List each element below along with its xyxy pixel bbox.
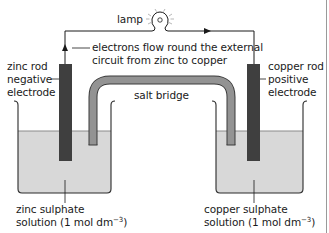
copper-rod-label-line2: positive: [268, 73, 308, 86]
lamp-icon: [146, 9, 174, 31]
copper-solution-label-line1: copper sulphate: [204, 203, 288, 216]
diagram-drawing: [0, 0, 329, 233]
lamp-label: lamp: [117, 13, 143, 26]
zinc-rod-label-line2: negative: [7, 73, 52, 86]
copper-solution-label-line2: solution (1 mol dm−3): [204, 216, 315, 229]
zinc-solution-label-line1: zinc sulphate: [16, 203, 84, 216]
electrochemical-cell-diagram: lamp electrons flow round the external c…: [0, 0, 329, 233]
zinc-rod-label-line3: electrode: [7, 86, 55, 99]
zinc-rod: [59, 64, 72, 161]
copper-rod-label-line3: electrode: [268, 86, 316, 99]
zinc-rod-label-line1: zinc rod: [7, 60, 48, 73]
electron-flow-arrow-up: [62, 44, 68, 51]
copper-rod-label-line1: copper rod: [268, 60, 324, 73]
copper-rod: [247, 64, 260, 161]
frame-right-border: [326, 0, 327, 233]
salt-bridge-label: salt bridge: [134, 89, 189, 102]
electron-flow-arrow-right: [204, 28, 211, 34]
electron-flow-label-line1: electrons flow round the external: [92, 41, 263, 54]
zinc-solution-label-line2: solution (1 mol dm−3): [16, 216, 127, 229]
electron-flow-label-line2: circuit from zinc to copper: [92, 54, 227, 67]
